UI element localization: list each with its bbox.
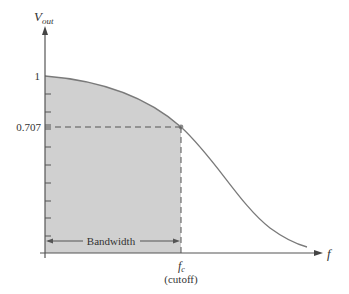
cutoff-frequency-label: fc: [178, 259, 185, 274]
frequency-response-diagram: Bandwidth Vout 1 0.707 f fc (cutoff): [0, 0, 349, 294]
bandwidth-shaded-area: [45, 76, 181, 253]
y-axis-label: Vout: [34, 9, 54, 26]
y-tick-label-1: 1: [35, 70, 41, 82]
bandwidth-label: Bandwidth: [87, 235, 136, 247]
y-tick-label-0707: 0.707: [16, 121, 41, 133]
cutoff-note: (cutoff): [164, 273, 198, 286]
x-axis-label: f: [327, 246, 333, 261]
x-axis-arrow-icon: [314, 250, 323, 256]
y-axis-arrow-icon: [42, 26, 48, 35]
